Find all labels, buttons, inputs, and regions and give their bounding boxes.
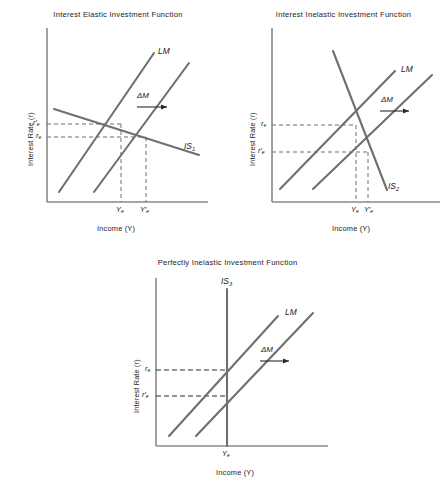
lm-curve-label-interest-elastic: LM <box>158 46 170 56</box>
plot-area-interest-inelastic <box>240 6 447 221</box>
x-tick-label-ye-prime: Y′e <box>364 205 373 214</box>
is-curve-label-interest-inelastic: IS2 <box>388 181 399 191</box>
x-axis-label-interest-inelastic: Income (Y) <box>332 224 370 233</box>
lm-curve-label-interest-inelastic: LM <box>401 64 413 74</box>
x-axis-label-interest-elastic: Income (Y) <box>97 224 135 233</box>
delta-m-label-interest-elastic: ΔM <box>137 91 149 100</box>
y-tick-label-re: re <box>261 119 266 128</box>
x-tick-label-ye-prime: Y′e <box>140 205 149 214</box>
y-tick-label-re-prime: r′e <box>33 118 40 127</box>
lm-curve-label-perfectly-inelastic: LM <box>285 307 297 317</box>
y-tick-label-re-prime: r′e <box>142 390 149 399</box>
plot-svg-interest-inelastic <box>240 6 447 221</box>
lm-curve-shifted <box>94 63 189 192</box>
lm-curve-shifted <box>196 313 313 436</box>
delta-m-arrow-head <box>403 108 409 113</box>
delta-m-label-perfectly-inelastic: ΔM <box>261 345 273 354</box>
x-tick-label-ye: Ye <box>116 205 124 214</box>
chart-interest-inelastic: Interest Inelastic Investment Function I… <box>240 6 447 246</box>
chart-perfectly-inelastic: Perfectly Inelastic Investment Function … <box>120 256 335 490</box>
chart-interest-elastic: Interest Elastic Investment Function Int… <box>18 6 218 246</box>
is2-curve <box>333 51 387 190</box>
x-axis-label-perfectly-inelastic: Income (Y) <box>216 468 254 477</box>
delta-m-arrow-head <box>283 358 289 363</box>
lm-curve-shifted <box>313 75 432 189</box>
plot-svg-interest-elastic <box>18 6 218 221</box>
plot-area-interest-elastic <box>18 6 218 221</box>
x-tick-label-ye: Ye <box>351 205 359 214</box>
y-tick-label-re-prime: r′e <box>258 146 265 155</box>
delta-m-label-interest-inelastic: ΔM <box>381 95 393 104</box>
lm-curve-initial <box>280 71 395 189</box>
lm-curve-initial <box>59 53 154 192</box>
is-curve-label-interest-elastic: IS1 <box>184 141 195 151</box>
y-tick-label-re: re <box>145 364 150 373</box>
is-curve-label-perfectly-inelastic: IS3 <box>221 276 232 286</box>
delta-m-arrow-head <box>161 104 167 109</box>
plot-area-perfectly-inelastic <box>120 256 335 466</box>
plot-svg-perfectly-inelastic <box>120 256 335 466</box>
y-tick-label-re: re <box>36 131 41 140</box>
x-tick-label-ye: Ye <box>222 449 230 458</box>
lm-curve-initial <box>169 316 278 436</box>
